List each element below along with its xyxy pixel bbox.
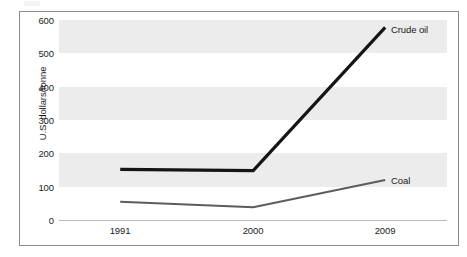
x-tick-2000: 2000 — [243, 225, 264, 236]
x-axis-line — [59, 220, 447, 221]
series-lines — [59, 20, 447, 220]
series-line-coal — [120, 180, 385, 207]
scan-artifact — [24, 1, 40, 6]
y-axis-title: U.S. dollars/tonne — [37, 49, 48, 159]
x-tick-2009: 2009 — [375, 225, 396, 236]
plot-area: Crude oil Coal — [59, 20, 447, 220]
y-axis-title-wrap: U.S. dollars/tonne — [28, 20, 42, 220]
y-tick-0: 0 — [49, 215, 54, 226]
series-label-coal: Coal — [391, 175, 410, 186]
series-line-crude-oil — [120, 27, 385, 170]
x-tick-1991: 1991 — [110, 225, 131, 236]
chart-figure: Crude oil Coal 600 500 400 300 200 100 0… — [0, 0, 467, 257]
series-label-crude-oil: Crude oil — [391, 24, 428, 35]
